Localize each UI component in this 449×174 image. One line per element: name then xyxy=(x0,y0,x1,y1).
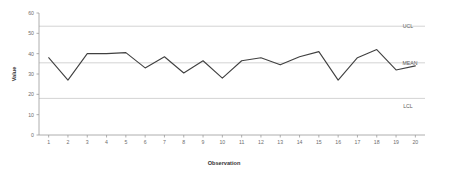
y-tick-label: 10 xyxy=(28,112,34,118)
control-chart: 0102030405060 12345678910111213141516171… xyxy=(0,0,449,174)
x-tick-label: 15 xyxy=(316,139,322,145)
y-tick-label: 20 xyxy=(28,91,34,97)
chart-canvas: 0102030405060 12345678910111213141516171… xyxy=(0,0,449,174)
y-tick-label: 0 xyxy=(31,132,34,138)
x-tick-label: 4 xyxy=(105,139,108,145)
x-tick-label: 5 xyxy=(124,139,127,145)
x-tick-label: 11 xyxy=(239,139,244,145)
x-tick-label: 6 xyxy=(144,139,147,145)
x-tick-label: 14 xyxy=(297,139,303,145)
y-tick-label: 50 xyxy=(28,30,34,36)
x-tick-label: 12 xyxy=(258,139,264,145)
x-tick-label: 3 xyxy=(86,139,89,145)
x-tick-label: 19 xyxy=(393,139,399,145)
x-tick-label: 20 xyxy=(412,139,418,145)
x-tick-label: 1 xyxy=(47,139,50,145)
x-tick-label: 2 xyxy=(67,139,70,145)
x-tick-label: 17 xyxy=(355,139,361,145)
x-tick-label: 7 xyxy=(163,139,166,145)
x-axis-title: Observation xyxy=(208,160,241,166)
x-tick-label: 10 xyxy=(219,139,225,145)
y-tick-label: 60 xyxy=(28,10,34,16)
mean-label: MEAN xyxy=(403,60,418,66)
y-tick-label: 30 xyxy=(28,71,34,77)
x-tick-label: 8 xyxy=(182,139,185,145)
y-axis-title: Value xyxy=(11,67,17,82)
x-tick-label: 9 xyxy=(202,139,205,145)
x-tick-label: 18 xyxy=(374,139,380,145)
y-tick-label: 40 xyxy=(28,51,34,57)
x-tick-label: 16 xyxy=(335,139,341,145)
lcl-label: LCL xyxy=(403,103,413,109)
ucl-label: UCL xyxy=(403,23,413,29)
x-tick-label: 13 xyxy=(277,139,283,145)
